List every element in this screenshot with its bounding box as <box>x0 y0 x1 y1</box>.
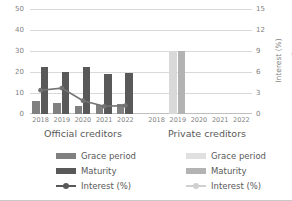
panel-official-creditors <box>30 9 136 114</box>
x-tick-official-2019: 2019 <box>51 116 72 124</box>
bar-grace-period-private-2019 <box>169 51 177 114</box>
x-axis-ticks-private: 2018 2019 2020 2021 2022 <box>146 116 252 128</box>
x-tick-official-2020: 2020 <box>72 116 93 124</box>
bottom-divider <box>0 200 292 201</box>
x-tick-official-2022: 2022 <box>115 116 136 124</box>
legend-label-grace-period-private: Grace period <box>211 151 266 161</box>
group-caption-private: Private creditors <box>146 128 268 139</box>
legend-swatch-grace-period-private <box>186 153 206 159</box>
panel-private-creditors <box>146 9 252 114</box>
y-axis-tick-left-50: 50 <box>6 6 24 13</box>
legend-item-maturity-private[interactable]: Maturity <box>186 163 266 178</box>
interest-line-private <box>262 9 292 114</box>
legend-item-grace-period-private[interactable]: Grace period <box>186 148 266 163</box>
legend-swatch-interest-official <box>56 182 76 189</box>
legend-official-creditors: Grace period Maturity Interest (%) <box>56 148 136 193</box>
bar-maturity-private-2019 <box>178 51 186 114</box>
x-tick-private-2018: 2018 <box>146 116 167 124</box>
legend-item-grace-period-official[interactable]: Grace period <box>56 148 136 163</box>
bar-group-private-2019 <box>167 9 188 114</box>
legend-private-creditors: Grace period Maturity Interest (%) <box>186 148 266 193</box>
legend-label-interest-private: Interest (%) <box>211 181 261 191</box>
group-caption-official: Official creditors <box>22 128 144 139</box>
x-tick-private-2020: 2020 <box>188 116 209 124</box>
legend-swatch-interest-private <box>186 182 206 189</box>
legend-label-maturity-official: Maturity <box>81 166 116 176</box>
plot-area <box>30 9 252 114</box>
legend-label-grace-period-official: Grace period <box>81 151 136 161</box>
legend-item-maturity-official[interactable]: Maturity <box>56 163 136 178</box>
chart-container: 50 40 30 20 10 0 15 12 9 6 3 0 Years Int… <box>0 0 292 201</box>
y-axis-tick-left-20: 20 <box>6 69 24 76</box>
legend-label-maturity-private: Maturity <box>211 166 246 176</box>
y-axis-title-left: Years <box>0 51 1 71</box>
x-tick-private-2021: 2021 <box>210 116 231 124</box>
x-tick-official-2018: 2018 <box>30 116 51 124</box>
y-axis-tick-left-0: 0 <box>6 111 24 118</box>
legend-label-interest-official: Interest (%) <box>81 181 131 191</box>
x-axis-ticks-official: 2018 2019 2020 2021 2022 <box>30 116 136 128</box>
y-axis-tick-left-30: 30 <box>6 48 24 55</box>
x-tick-private-2022: 2022 <box>231 116 252 124</box>
x-tick-official-2021: 2021 <box>94 116 115 124</box>
legend-item-interest-private[interactable]: Interest (%) <box>186 178 266 193</box>
legend-swatch-maturity-private <box>186 168 206 174</box>
legend-swatch-maturity-official <box>56 168 76 174</box>
legend-swatch-grace-period-official <box>56 153 76 159</box>
y-axis-tick-left-40: 40 <box>6 27 24 34</box>
y-axis-tick-left-10: 10 <box>6 90 24 97</box>
legend-item-interest-official[interactable]: Interest (%) <box>56 178 136 193</box>
x-tick-private-2019: 2019 <box>167 116 188 124</box>
